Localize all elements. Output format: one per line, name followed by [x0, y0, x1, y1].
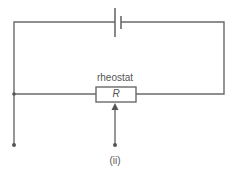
slider-arrow-icon	[112, 103, 119, 110]
rheostat-label: rheostat	[97, 72, 133, 83]
junction-dot	[12, 92, 16, 96]
terminal-slider-dot	[113, 143, 117, 147]
terminal-left-dot	[12, 143, 16, 147]
diagram-caption: (ii)	[109, 155, 120, 166]
wire-top-left	[14, 22, 115, 94]
wire-top-right	[121, 22, 224, 94]
resistance-symbol: R	[112, 88, 119, 99]
